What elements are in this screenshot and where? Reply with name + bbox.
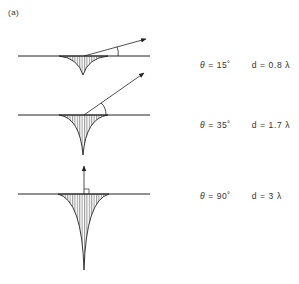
groove-row-3: [18, 166, 150, 270]
caption-row-1: θ = 15˚ d = 0.8 λ: [200, 60, 290, 70]
groove-profile: [59, 56, 108, 75]
groove-profile: [59, 115, 108, 155]
angle-arc: [101, 103, 106, 115]
depth-value: d = 0.8 λ: [252, 60, 290, 70]
groove-profile: [58, 194, 109, 270]
right-angle-marker: [84, 189, 89, 194]
theta-value: = 35˚: [208, 120, 231, 130]
depth-value: d = 1.7 λ: [252, 120, 290, 130]
groove-row-2: [18, 73, 150, 155]
diffraction-arrow: [84, 73, 144, 115]
caption-row-3: θ = 90˚ d = 3 λ: [200, 191, 282, 201]
theta-symbol: θ: [200, 191, 205, 201]
diffraction-arrow: [84, 39, 146, 56]
depth-value: d = 3 λ: [252, 191, 282, 201]
theta-value: = 90˚: [208, 191, 231, 201]
angle-arc: [117, 47, 118, 56]
theta-symbol: θ: [200, 120, 205, 130]
theta-symbol: θ: [200, 60, 205, 70]
groove-row-1: [18, 39, 150, 75]
caption-row-2: θ = 35˚ d = 1.7 λ: [200, 120, 290, 130]
groove-diagram: [0, 0, 299, 284]
theta-value: = 15˚: [208, 60, 231, 70]
